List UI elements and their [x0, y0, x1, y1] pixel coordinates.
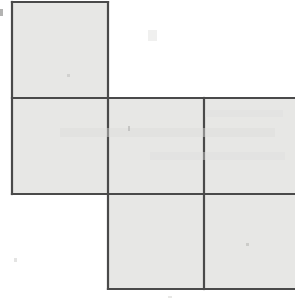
middle-left-square: [12, 98, 108, 194]
bottom-center-square: [108, 194, 204, 289]
figure-canvas: [0, 0, 295, 299]
middle-right-square: [204, 98, 295, 194]
middle-center-square: [108, 98, 204, 194]
square-net-figure: [0, 0, 295, 299]
bottom-right-square: [204, 194, 295, 289]
square-faces-group: [12, 2, 295, 289]
top-square: [12, 2, 108, 98]
